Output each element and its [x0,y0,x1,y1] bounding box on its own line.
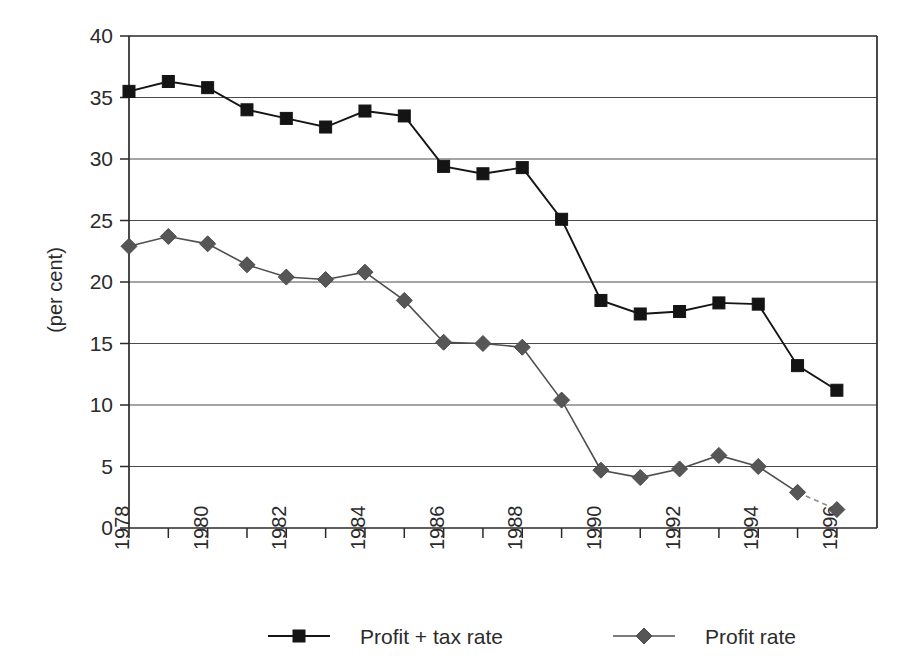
data-point [359,105,371,117]
series-line [129,236,798,492]
y-axis-tick-label: 35 [90,86,113,109]
x-axis-tick-label: 1988 [504,506,526,551]
y-axis-tick-label: 20 [90,270,113,293]
data-point [674,306,686,318]
y-axis-title: (per cent) [44,247,66,333]
x-axis-tick-label: 1982 [268,506,290,551]
data-point [790,484,806,500]
data-point [239,257,255,273]
x-axis-tick-label: 1986 [426,506,448,551]
line-chart: 0510152025303540 19781980198219841986198… [0,0,922,666]
data-point [162,76,174,88]
y-axis-tick-label: 15 [90,332,113,355]
data-point [123,85,135,97]
data-point [202,82,214,94]
y-axis-tick-label: 25 [90,209,113,232]
x-axis-tick-label: 1990 [583,506,605,551]
x-axis-tick-label: 1994 [740,506,762,551]
data-point [711,447,727,463]
data-point [792,360,804,372]
data-point [160,228,176,244]
y-axis-tick-label: 30 [90,147,113,170]
chart-container: 0510152025303540 19781980198219841986198… [0,0,922,666]
data-point [278,269,294,285]
data-point [593,462,609,478]
data-point [438,160,450,172]
data-point [595,294,607,306]
data-point [121,238,137,254]
data-point [320,121,332,133]
y-axis-tick-labels: 0510152025303540 [90,24,113,539]
data-point [554,392,570,408]
data-series [121,76,845,518]
data-point [475,336,491,352]
chart-legend: Profit + tax rateProfit rate [268,625,796,648]
y-axis-ticks [120,36,129,528]
data-point [750,459,766,475]
y-axis-tick-label: 40 [90,24,113,47]
series-2 [121,228,845,517]
data-point [477,168,489,180]
data-point [241,104,253,116]
x-axis-tick-label: 1992 [662,506,684,551]
legend-marker-icon [636,628,652,644]
data-point [556,213,568,225]
data-point [634,308,646,320]
data-point [318,272,334,288]
data-point [632,470,648,486]
data-point [672,461,688,477]
legend-item-2[interactable]: Profit rate [613,625,796,648]
x-axis-ticks [129,528,837,538]
data-point [752,298,764,310]
y-axis-title-label: (per cent) [44,247,66,333]
data-point [200,236,216,252]
data-point [516,162,528,174]
data-point [357,264,373,280]
y-axis-tick-label: 5 [101,455,113,478]
x-axis-tick-label: 1978 [111,506,133,551]
x-axis-tick-label: 1980 [190,506,212,551]
data-point [398,110,410,122]
y-axis-tick-label: 10 [90,393,113,416]
legend-label: Profit + tax rate [360,625,503,648]
data-point [831,384,843,396]
gridlines [129,98,877,467]
data-point [280,112,292,124]
x-axis-tick-label: 1984 [347,506,369,551]
legend-marker-icon [293,630,305,642]
legend-item-1[interactable]: Profit + tax rate [268,625,503,648]
legend-label: Profit rate [705,625,796,648]
data-point [514,339,530,355]
data-point [713,297,725,309]
